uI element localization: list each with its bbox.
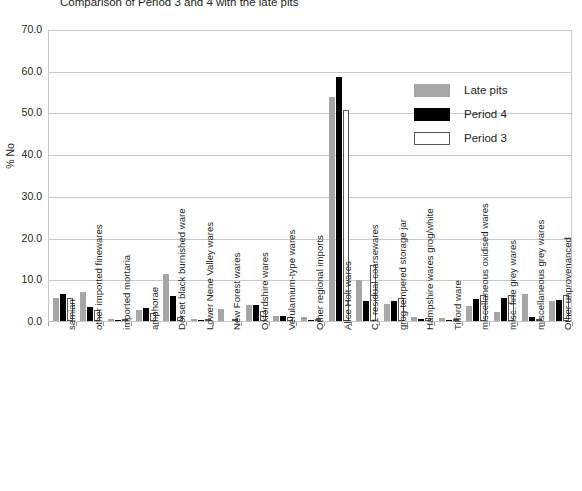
x-axis-category-label: imported mortaria: [121, 180, 132, 330]
bar: [446, 320, 452, 321]
bar: [218, 309, 224, 321]
x-axis-category-label: Other unprovenanced: [562, 180, 573, 330]
x-axis-category-label: Other regional imports: [314, 180, 325, 330]
legend-swatch-p3: [414, 132, 450, 145]
chart-legend: Late pitsPeriod 4Period 3: [414, 78, 560, 150]
x-axis-category-label: Alice Holt wares: [342, 180, 353, 330]
legend-label: Period 4: [464, 108, 507, 120]
bar: [191, 319, 197, 321]
y-axis-tick-label: 20.0: [2, 232, 42, 244]
x-axis-category-label: miscellaneous oxidised wares: [479, 180, 490, 330]
x-axis-tick: [48, 322, 49, 326]
x-axis-category-label: misc. fine grey wares: [507, 180, 518, 330]
bar: [466, 306, 472, 321]
bar: [273, 316, 279, 321]
chart-title: Comparison of Period 3 and 4 with the la…: [60, 0, 480, 9]
bar: [391, 301, 397, 321]
y-axis-tick-label: 40.0: [2, 148, 42, 160]
bar: [439, 318, 445, 321]
bar: [108, 319, 114, 321]
x-axis-category-label: grog-tempered storage jar: [397, 180, 408, 330]
x-axis-category-label: other imported finewares: [93, 180, 104, 330]
legend-label: Late pits: [464, 84, 507, 96]
x-axis-category-label: Hampshire wares grog/white: [424, 180, 435, 330]
bar: [329, 97, 335, 321]
legend-item[interactable]: Period 3: [414, 126, 560, 150]
x-axis-category-label: samian: [66, 180, 77, 330]
x-axis-category-label: Dorset black burnished ware: [176, 180, 187, 330]
x-axis-category-label: Lower Nene Valley wares: [204, 180, 215, 330]
legend-item[interactable]: Late pits: [414, 78, 560, 102]
y-axis-tick-label: 60.0: [2, 65, 42, 77]
x-axis-category-label: Oxfordshire wares: [259, 180, 270, 330]
legend-swatch-late: [414, 84, 450, 97]
bar: [136, 310, 142, 321]
x-axis-category-label: C1 residual coarsewares: [369, 180, 380, 330]
bar: [494, 312, 500, 321]
bar: [60, 294, 66, 321]
x-axis-category-label: miscellaneous grey wares: [535, 180, 546, 330]
bar: [411, 317, 417, 321]
legend-label: Period 3: [464, 132, 507, 144]
bar: [522, 294, 528, 321]
x-axis-category-label: New Forest wares: [231, 180, 242, 330]
x-axis-category-label: Tilford ware: [452, 180, 463, 330]
legend-swatch-p4: [414, 108, 450, 121]
y-axis-tick-label: 30.0: [2, 190, 42, 202]
bar: [163, 274, 169, 321]
bar: [53, 298, 59, 321]
bar: [384, 304, 390, 321]
bar: [336, 77, 342, 321]
bar: [143, 308, 149, 321]
chart-container: Comparison of Period 3 and 4 with the la…: [0, 0, 582, 491]
y-axis-tick-label: 50.0: [2, 106, 42, 118]
bar: [549, 301, 555, 321]
bar: [356, 280, 362, 321]
y-axis-tick-label: 0.0: [2, 315, 42, 327]
bar: [253, 305, 259, 321]
bar: [529, 317, 535, 321]
legend-item[interactable]: Period 4: [414, 102, 560, 126]
bar: [246, 305, 252, 321]
bar: [80, 292, 86, 321]
y-axis-tick-label: 10.0: [2, 273, 42, 285]
bar: [301, 317, 307, 321]
x-axis-category-label: amphorae: [149, 180, 160, 330]
y-axis-tick-label: 70.0: [2, 23, 42, 35]
bar: [198, 320, 204, 321]
x-axis-category-label: Verulamium-type wares: [286, 180, 297, 330]
